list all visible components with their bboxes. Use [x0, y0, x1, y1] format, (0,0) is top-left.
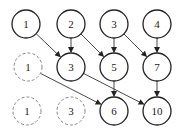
node-label: 1: [24, 105, 30, 117]
node-label: 7: [154, 61, 160, 73]
node-r3c3: 6: [100, 97, 128, 125]
node-label: 3: [68, 105, 74, 117]
node-r1c2: 2: [57, 10, 85, 38]
node-label: 1: [25, 61, 31, 73]
node-label: 1: [23, 18, 29, 30]
prefix-sum-diagram: 1234135713610: [0, 0, 181, 134]
edge-r1c1-to-r2c2: [36, 34, 60, 57]
node-label: 10: [152, 105, 164, 117]
node-r1c3: 3: [100, 10, 128, 38]
node-label: 3: [68, 61, 74, 73]
node-r2c4: 7: [143, 53, 171, 81]
node-r3c1: 1: [13, 97, 41, 125]
node-r2c3: 5: [100, 53, 128, 81]
node-label: 4: [154, 18, 160, 30]
node-r2c2: 3: [57, 53, 85, 81]
node-r2c1: 1: [14, 53, 42, 81]
node-r1c4: 4: [143, 10, 171, 38]
node-label: 6: [111, 105, 117, 117]
node-label: 3: [111, 18, 117, 30]
edge-r1c3-to-r2c4: [124, 34, 146, 56]
node-label: 5: [111, 61, 117, 73]
edges: [36, 34, 157, 104]
nodes: 1234135713610: [12, 10, 171, 125]
node-r1c1: 1: [12, 10, 40, 38]
node-r3c2: 3: [57, 97, 85, 125]
node-label: 2: [68, 18, 74, 30]
node-r3c4: 10: [143, 97, 171, 125]
edge-r1c2-to-r2c3: [81, 34, 103, 56]
